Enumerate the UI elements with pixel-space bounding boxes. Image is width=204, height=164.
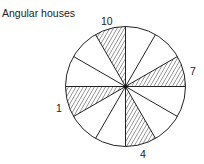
angular-houses-wheel: 10 7 1 4 <box>0 0 204 164</box>
wheel-center <box>124 85 127 88</box>
house-label-10: 10 <box>101 15 113 27</box>
house-label-1: 1 <box>56 102 62 114</box>
house-label-7: 7 <box>190 65 196 77</box>
house-label-4: 4 <box>140 148 146 160</box>
